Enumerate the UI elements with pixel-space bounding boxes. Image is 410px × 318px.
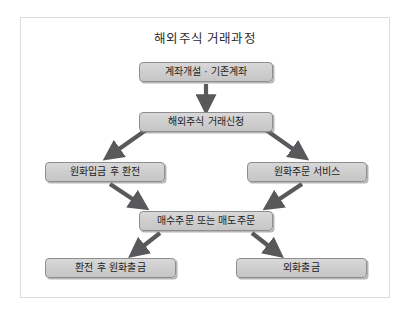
node-overseas-stock-apply-label: 해외주식 거래신청 (168, 117, 244, 127)
diagram-frame-border (20, 17, 390, 298)
node-krw-deposit-exchange[interactable]: 원화입금 후 환전 (45, 162, 165, 182)
node-exchange-krw-withdrawal[interactable]: 환전 후 원화출금 (45, 258, 176, 278)
node-account-open-label: 계좌개설 · 기존계좌 (165, 67, 248, 77)
node-buy-or-sell-order[interactable]: 매수주문 또는 매도주문 (139, 211, 273, 231)
flowchart-diagram: 해외주식 거래과정 (0, 0, 410, 318)
diagram-title: 해외주식 거래과정 (0, 28, 410, 47)
node-krw-order-service[interactable]: 원화주문 서비스 (247, 162, 367, 182)
node-overseas-stock-apply[interactable]: 해외주식 거래신청 (139, 112, 273, 132)
node-exchange-krw-withdrawal-label: 환전 후 원화출금 (75, 263, 145, 273)
node-fx-withdrawal-label: 외화출금 (283, 263, 319, 273)
node-account-open[interactable]: 계좌개설 · 기존계좌 (139, 62, 273, 82)
node-buy-or-sell-order-label: 매수주문 또는 매도주문 (157, 216, 255, 226)
node-krw-deposit-exchange-label: 원화입금 후 환전 (70, 167, 140, 177)
node-fx-withdrawal[interactable]: 외화출금 (236, 258, 367, 278)
node-krw-order-service-label: 원화주문 서비스 (274, 167, 341, 177)
